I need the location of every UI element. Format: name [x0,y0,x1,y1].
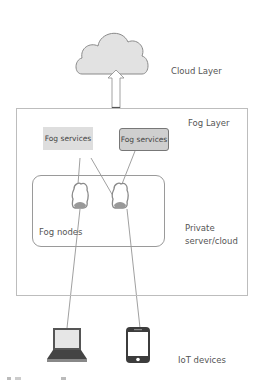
fog-nodes-label: Fog nodes [39,227,83,237]
laptop-icon [46,327,88,363]
fog-node-1-icon [71,181,89,211]
uplink-arrow-icon [104,68,128,108]
private-server-label-line2: server/cloud [185,236,238,246]
iot-devices-label: IoT devices [178,355,226,365]
fog-services-label: Fog services [121,135,168,144]
fog-layer-label: Fog Layer [188,118,230,128]
cloud-layer-label: Cloud Layer [171,66,222,76]
cropped-caption-fragment [5,377,85,381]
fog-services-box-2: Fog services [119,128,169,151]
private-server-label-line1: Private [185,223,215,233]
smartphone-icon [125,326,151,364]
fog-services-box-1: Fog services [43,127,93,150]
fog-node-2-icon [111,181,129,211]
fog-services-label: Fog services [45,134,92,143]
